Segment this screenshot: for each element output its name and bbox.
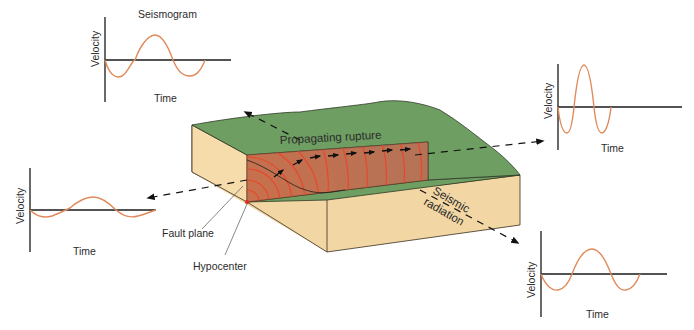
seismogram-top-left: Seismogram Velocity Time — [89, 8, 231, 104]
seismogram-top-right: Velocity Time — [542, 64, 682, 154]
waveform — [541, 249, 640, 290]
y-axis-label: Velocity — [542, 82, 554, 119]
hypocenter-label: Hypocenter — [193, 260, 247, 272]
y-axis-label: Velocity — [14, 187, 26, 224]
waveform — [30, 197, 156, 217]
y-axis-label: Velocity — [525, 261, 537, 298]
seismogram-bottom-right: Velocity Time — [525, 231, 667, 320]
x-axis-label: Time — [73, 245, 96, 257]
x-axis-label: Time — [601, 142, 624, 154]
waveform — [558, 65, 611, 133]
x-axis-label: Time — [154, 92, 177, 104]
fault-plane-label: Fault plane — [162, 227, 214, 239]
seismogram-left: Velocity Time — [14, 168, 156, 257]
earthquake-rupture-diagram: Propagating rupture Seismic radiation Fa… — [0, 0, 694, 330]
seismogram-title: Seismogram — [138, 8, 197, 20]
hypocenter-leader — [225, 204, 247, 255]
fault-plane-leader — [202, 186, 243, 229]
waveform — [105, 35, 205, 77]
x-axis-label: Time — [586, 308, 609, 320]
hypocenter-marker — [245, 200, 249, 204]
y-axis-label: Velocity — [89, 30, 101, 67]
